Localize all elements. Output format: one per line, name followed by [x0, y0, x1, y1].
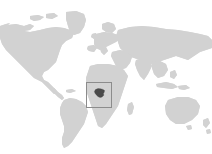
world-locator-map: Nigeria World locator map Africa equirec…: [0, 0, 212, 154]
world-map-svg: [0, 0, 212, 154]
